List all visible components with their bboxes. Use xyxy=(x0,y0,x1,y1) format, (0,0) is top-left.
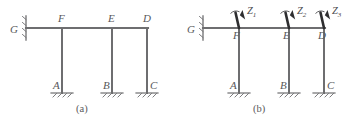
support-b-hatch xyxy=(103,94,107,98)
node-label-c: C xyxy=(327,80,334,91)
caption-b: (b) xyxy=(253,104,265,115)
support-a-hatch xyxy=(230,94,234,98)
support-b-hatch xyxy=(108,94,112,98)
support-b-hatch xyxy=(295,94,299,98)
support-b-hatch xyxy=(118,94,122,98)
support-c-hatch xyxy=(153,94,157,98)
rotational-constraint-f xyxy=(231,10,246,28)
node-label-a: A xyxy=(53,80,60,91)
caption-a: (a) xyxy=(76,104,88,115)
support-label-g: G xyxy=(187,24,195,35)
node-label-b: B xyxy=(280,80,287,91)
unknown-label-z2: Z2 xyxy=(297,6,306,19)
unknown-subscript-z3: 3 xyxy=(338,11,342,19)
rotational-constraint-d xyxy=(316,10,331,28)
support-c-hatch xyxy=(138,94,142,98)
support-a-hatch xyxy=(68,94,72,98)
support-b-hatch xyxy=(280,94,284,98)
node-label-e: E xyxy=(108,13,115,24)
support-b-hatch xyxy=(113,94,117,98)
diagram-b: G F E D A B C Z1 Z2 Z3 (b) xyxy=(177,0,354,123)
node-label-a: A xyxy=(230,80,237,91)
support-a-hatch xyxy=(58,94,62,98)
structural-frame-figure: G F E D A B C (a) xyxy=(0,0,354,123)
support-a-hatch xyxy=(53,94,57,98)
support-c-hatch xyxy=(325,94,329,98)
node-label-c: C xyxy=(150,80,157,91)
node-label-f: F xyxy=(58,13,65,24)
support-a-hatch xyxy=(245,94,249,98)
support-c-hatch xyxy=(320,94,324,98)
node-label-e: E xyxy=(283,30,290,41)
unknown-label-z3: Z3 xyxy=(332,6,341,19)
diagram-b-drawing xyxy=(177,0,354,123)
support-a-hatch xyxy=(240,94,244,98)
support-c-hatch xyxy=(148,94,152,98)
rotational-constraint-e xyxy=(281,10,296,28)
support-c-hatch xyxy=(143,94,147,98)
unknown-label-z1: Z1 xyxy=(247,6,256,19)
support-b-hatch xyxy=(285,94,289,98)
node-label-d: D xyxy=(318,30,326,41)
node-label-f: F xyxy=(233,30,240,41)
unknown-subscript-z1: 1 xyxy=(253,11,257,19)
support-label-g: G xyxy=(10,24,18,35)
support-a-hatch xyxy=(235,94,239,98)
unknown-subscript-z2: 2 xyxy=(303,11,307,19)
diagram-a: G F E D A B C (a) xyxy=(0,0,177,123)
support-a-hatch xyxy=(63,94,67,98)
node-label-d: D xyxy=(143,13,151,24)
node-label-b: B xyxy=(103,80,110,91)
support-b-hatch xyxy=(290,94,294,98)
support-c-hatch xyxy=(315,94,319,98)
support-c-hatch xyxy=(330,94,334,98)
